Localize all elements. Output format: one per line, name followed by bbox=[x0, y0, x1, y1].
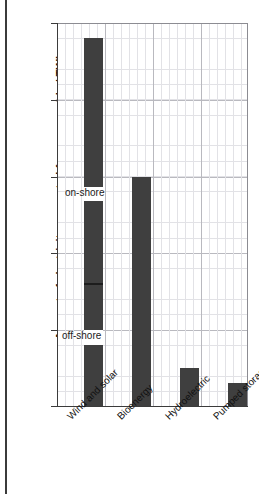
plot-area: on-shore off-shore bbox=[57, 23, 248, 407]
y-tick-mark-40 bbox=[51, 100, 57, 101]
bar-wind-and-solar bbox=[84, 38, 103, 406]
y-tick-mark-30 bbox=[51, 177, 57, 178]
bar-chart-figure: Amount of electricity generated from ren… bbox=[0, 0, 259, 494]
annotation-off-shore: off-shore bbox=[62, 330, 101, 341]
y-tick-mark-0 bbox=[51, 406, 57, 407]
plot-spine-right bbox=[247, 23, 248, 407]
page-edge-rule bbox=[5, 0, 7, 494]
annotation-on-shore: on-shore bbox=[65, 187, 104, 198]
plot-spine-left bbox=[57, 23, 58, 407]
plot-spine-top bbox=[57, 23, 248, 24]
y-tick-mark-20 bbox=[51, 253, 57, 254]
y-tick-mark-10 bbox=[51, 330, 57, 331]
y-tick-mark-50 bbox=[51, 23, 57, 24]
bar-wind-and-solar-split-line bbox=[84, 283, 103, 285]
bar-bioenergy bbox=[132, 177, 151, 406]
